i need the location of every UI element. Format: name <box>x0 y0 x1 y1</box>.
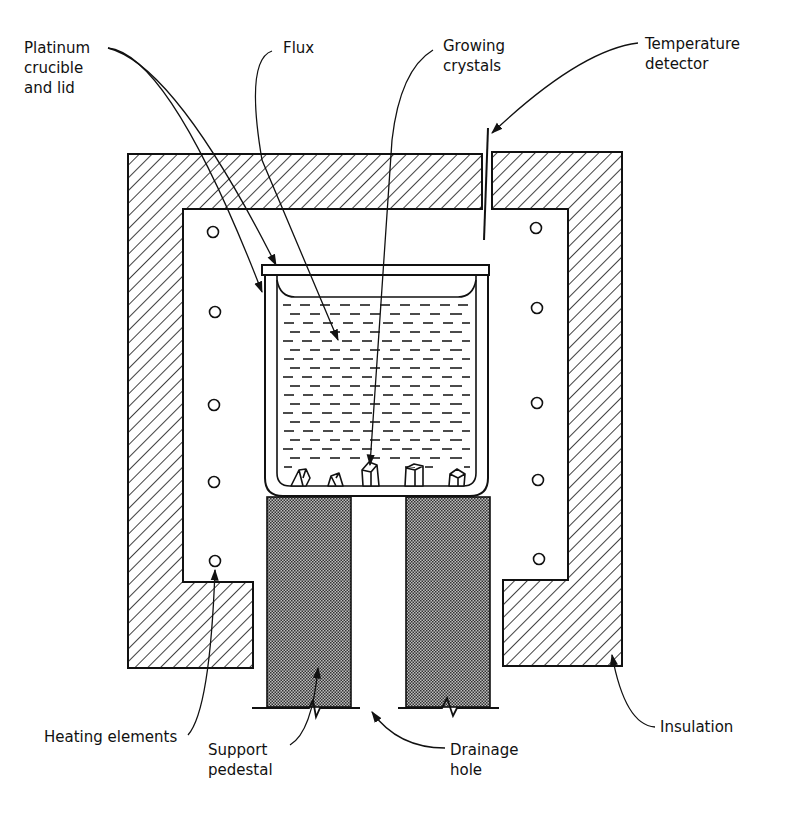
support-pedestal-left <box>267 497 351 707</box>
heating-element-icon <box>531 223 542 234</box>
label-drainage-hole: Drainage hole <box>450 740 519 780</box>
heating-element-icon <box>532 303 543 314</box>
insulation-right <box>492 152 622 666</box>
heating-element-icon <box>532 398 543 409</box>
temperature-detector <box>484 128 488 240</box>
heating-element-icon <box>210 307 221 318</box>
label-heating-elements: Heating elements <box>44 727 177 747</box>
crucible-lid <box>262 265 489 275</box>
label-temperature-detector: Temperature detector <box>645 34 740 74</box>
heating-element-icon <box>209 477 220 488</box>
furnace-diagram <box>0 0 793 826</box>
label-support-pedestal: Support pedestal <box>208 740 273 780</box>
detector-leader-icon <box>492 43 638 133</box>
heating-element-icon <box>210 556 221 567</box>
label-platinum-crucible: Platinum crucible and lid <box>24 38 90 98</box>
heating-element-icon <box>534 554 545 565</box>
heating-element-icon <box>208 227 219 238</box>
heating-element-icon <box>533 475 544 486</box>
support-pedestal-right <box>406 497 490 707</box>
label-growing-crystals: Growing crystals <box>443 36 505 76</box>
label-insulation: Insulation <box>660 717 733 737</box>
heating-element-icon <box>209 400 220 411</box>
label-flux: Flux <box>283 38 314 58</box>
drainage-leader-icon <box>372 712 445 748</box>
